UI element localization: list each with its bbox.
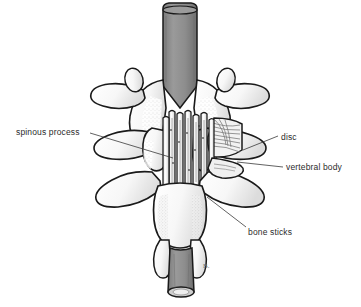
spine-illustration xyxy=(0,0,361,307)
spinal-fusion-figure: spinous process disc vertebral body bone… xyxy=(0,0,361,307)
top-cut-spinous-process xyxy=(163,3,197,108)
leader-vertebral-body xyxy=(237,162,283,167)
label-bone-sticks: bone sticks xyxy=(248,228,292,237)
bottom-cut-spinous-process xyxy=(168,248,194,297)
label-disc: disc xyxy=(281,133,297,142)
label-vertebral-body: vertebral body xyxy=(286,163,342,172)
label-spinous-process: spinous process xyxy=(16,128,80,137)
artist-signature-mark: B. xyxy=(203,262,209,270)
